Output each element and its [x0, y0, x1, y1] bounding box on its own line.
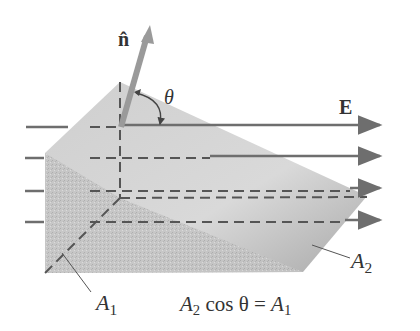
flux-diagram — [0, 0, 420, 331]
equation: A2 cos θ = A1 — [180, 292, 291, 317]
normal-label: n̂ — [118, 28, 129, 51]
area1-label: A1 — [96, 290, 117, 316]
field-label: E — [339, 96, 352, 119]
area2-label: A2 — [351, 248, 372, 274]
angle-label: θ — [164, 86, 174, 109]
